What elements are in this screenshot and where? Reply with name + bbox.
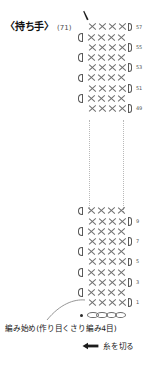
start-tick-icon xyxy=(83,10,91,21)
cut-annotation: 糸を切る xyxy=(82,340,134,351)
single-crochet-icon xyxy=(107,63,117,73)
single-crochet-icon xyxy=(96,93,106,103)
single-crochet-icon xyxy=(86,206,96,216)
stitch-row-cells xyxy=(87,216,133,226)
single-crochet-icon xyxy=(107,298,117,308)
chart-break-indicator xyxy=(78,120,154,212)
single-crochet-icon xyxy=(106,226,116,236)
single-crochet-icon xyxy=(97,83,107,93)
break-line-left xyxy=(89,120,90,212)
stitch-row-cells xyxy=(80,73,126,83)
single-crochet-icon xyxy=(106,93,116,103)
single-crochet-icon xyxy=(107,83,117,93)
single-crochet-icon xyxy=(96,53,106,63)
stitch-row-cells xyxy=(87,42,133,52)
row-number-label: 3 xyxy=(136,279,139,285)
single-crochet-icon xyxy=(106,288,116,298)
single-crochet-icon xyxy=(86,53,96,63)
stitch-row-cells xyxy=(80,226,126,236)
single-crochet-icon xyxy=(117,216,127,226)
single-crochet-icon xyxy=(106,267,116,277)
single-crochet-icon xyxy=(107,237,117,247)
stitch-row-cells xyxy=(80,53,126,63)
single-crochet-icon xyxy=(107,22,117,32)
single-crochet-icon xyxy=(116,206,126,216)
turning-chain-icon xyxy=(127,42,133,52)
single-crochet-icon xyxy=(117,63,127,73)
single-crochet-icon xyxy=(86,32,96,42)
chain-stitch-icon xyxy=(115,312,127,318)
single-crochet-icon xyxy=(96,32,106,42)
single-crochet-icon xyxy=(87,237,97,247)
single-crochet-icon xyxy=(87,63,97,73)
single-crochet-icon xyxy=(97,42,107,52)
single-crochet-icon xyxy=(116,93,126,103)
stitch-row-cells xyxy=(80,288,126,298)
stitch-row-cells xyxy=(87,22,133,32)
stitch-row-cells xyxy=(80,247,126,257)
row-number-label: 57 xyxy=(136,24,142,30)
single-crochet-icon xyxy=(97,298,107,308)
stitch-row-cells xyxy=(80,93,126,103)
stitch-row-cells xyxy=(80,267,126,277)
single-crochet-icon xyxy=(116,267,126,277)
row-number-label: 5 xyxy=(136,258,139,264)
crochet-chart-page: 〈持ち手〉 (71) 5755535149 97531 編み始め(作り目くさり編… xyxy=(0,0,154,365)
start-annotation: 編み始め(作り目くさり編み4目) xyxy=(5,322,117,333)
page-title: 〈持ち手〉 (71) xyxy=(5,18,71,33)
row-number-label: 53 xyxy=(136,64,142,70)
turning-chain-icon xyxy=(127,257,133,267)
stitch-row-cells xyxy=(87,83,133,93)
single-crochet-icon xyxy=(86,93,96,103)
stitch-row-cells xyxy=(87,104,133,114)
turning-chain-icon xyxy=(127,22,133,32)
turning-chain-icon xyxy=(127,237,133,247)
row-number-label: 51 xyxy=(136,85,142,91)
single-crochet-icon xyxy=(107,216,117,226)
single-crochet-icon xyxy=(107,277,117,287)
part-count-label: (71) xyxy=(57,24,71,32)
single-crochet-icon xyxy=(97,63,107,73)
single-crochet-icon xyxy=(106,247,116,257)
single-crochet-icon xyxy=(86,73,96,83)
foundation-chain-row xyxy=(87,312,124,318)
single-crochet-icon xyxy=(97,277,107,287)
stitch-row-cells xyxy=(87,298,133,308)
single-crochet-icon xyxy=(97,237,107,247)
turning-chain-icon xyxy=(127,83,133,93)
single-crochet-icon xyxy=(86,247,96,257)
single-crochet-icon xyxy=(116,73,126,83)
single-crochet-icon xyxy=(117,298,127,308)
single-crochet-icon xyxy=(87,22,97,32)
stitch-chart: 5755535149 97531 xyxy=(78,10,154,310)
single-crochet-icon xyxy=(117,104,127,114)
single-crochet-icon xyxy=(96,73,106,83)
stitch-row-cells xyxy=(87,277,133,287)
single-crochet-icon xyxy=(87,277,97,287)
single-crochet-icon xyxy=(96,206,106,216)
single-crochet-icon xyxy=(87,257,97,267)
left-arrow-icon xyxy=(82,342,99,350)
single-crochet-icon xyxy=(97,216,107,226)
single-crochet-icon xyxy=(97,22,107,32)
leader-line xyxy=(44,296,86,322)
single-crochet-icon xyxy=(117,22,127,32)
single-crochet-icon xyxy=(86,288,96,298)
stitch-row-cells xyxy=(87,237,133,247)
single-crochet-icon xyxy=(117,42,127,52)
single-crochet-icon xyxy=(117,277,127,287)
single-crochet-icon xyxy=(117,257,127,267)
single-crochet-icon xyxy=(116,288,126,298)
single-crochet-icon xyxy=(96,247,106,257)
single-crochet-icon xyxy=(86,267,96,277)
single-crochet-icon xyxy=(116,32,126,42)
cut-annotation-label: 糸を切る xyxy=(103,340,134,351)
turning-chain-icon xyxy=(127,216,133,226)
single-crochet-icon xyxy=(86,226,96,236)
single-crochet-icon xyxy=(87,216,97,226)
row-number-label: 49 xyxy=(136,105,142,111)
single-crochet-icon xyxy=(117,237,127,247)
stitch-row-cells xyxy=(80,32,126,42)
single-crochet-icon xyxy=(107,42,117,52)
row-number-label: 7 xyxy=(136,238,139,244)
